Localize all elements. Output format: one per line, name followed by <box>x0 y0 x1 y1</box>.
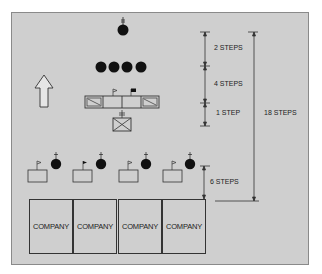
company-block-4: COMPANY <box>162 199 206 254</box>
measurement-lines <box>200 32 259 201</box>
measure-label-1-step: 1 STEP <box>216 109 240 116</box>
commander-symbol <box>118 17 129 36</box>
company-guidon-4 <box>163 152 195 182</box>
company-guidon-1 <box>28 152 61 182</box>
company-guidon-3 <box>119 152 151 182</box>
measure-label-2-steps: 2 STEPS <box>214 44 243 51</box>
measure-label-4-steps: 4 STEPS <box>214 80 243 87</box>
staff-row <box>96 62 147 73</box>
company-block-2: COMPANY <box>73 199 117 254</box>
arrow-up-icon <box>35 75 53 107</box>
measure-label-6-steps: 6 STEPS <box>210 178 239 185</box>
infantry-unit-symbol <box>113 110 131 131</box>
measure-label-18-steps: 18 STEPS <box>264 109 297 116</box>
company-guidon-2 <box>73 152 106 182</box>
color-guard <box>85 89 159 109</box>
company-block-3: COMPANY <box>118 199 162 254</box>
company-block-1: COMPANY <box>29 199 73 254</box>
